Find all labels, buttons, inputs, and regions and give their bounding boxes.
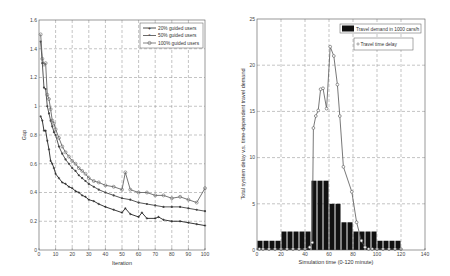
left-x-axis-label: Iteration [112,260,132,266]
x-tick-label: 20 [278,251,284,257]
circle-marker-icon [312,127,315,130]
y-tick-label: 20 [249,62,255,68]
x-tick-label: 100 [201,251,210,257]
y-tick-label: 0.6 [30,161,37,167]
right-y-axis-label: Total system delay v.s. time-dependent t… [240,68,246,199]
x-tick-label: 100 [373,251,382,257]
plus-marker-icon [113,209,115,211]
star-marker-icon [78,174,80,176]
y-tick-label: 15 [249,108,255,114]
demand-bar [299,232,304,250]
x-tick-label: 50 [119,251,125,257]
plus-marker-icon [187,221,189,223]
demand-bar [353,232,358,250]
y-tick-label: 5 [252,201,255,207]
demand-bar [287,232,292,250]
star-marker-icon [58,145,60,147]
left-grid [39,20,205,250]
star-marker-icon [48,112,50,114]
series-line-0 [41,116,205,225]
star-marker-icon [55,134,57,136]
x-tick-label: 40 [302,251,308,257]
x-tick-label: 40 [103,251,109,257]
figure: 010203040506070809010000.20.40.60.811.21… [0,0,450,276]
circle-marker-icon [325,107,328,110]
plus-marker-icon [179,220,181,222]
legend-label-delay: Travel time delay [361,42,398,47]
plus-marker-icon [39,115,41,117]
demand-bar [347,222,352,250]
y-tick-label: 1 [34,103,37,109]
star-marker-icon [51,125,53,127]
demand-bar [317,181,322,250]
x-tick-label: 0 [256,251,259,257]
y-tick-label: 1.4 [30,46,37,52]
plus-marker-icon [46,140,48,142]
plus-marker-icon [196,223,198,225]
circle-marker-icon [336,83,339,86]
star-marker-icon [129,199,131,201]
x-tick-label: 0 [38,251,41,257]
x-tick-label: 120 [397,251,406,257]
star-marker-icon [43,86,45,88]
x-tick-label: 60 [326,251,332,257]
star-marker-icon [98,189,100,191]
circle-marker-icon [338,115,341,118]
plus-marker-icon: + [148,25,151,31]
right-chart-delay-vs-demand: 0204060801001201400510152025 Simulation … [240,16,429,265]
circle-marker-icon [322,87,325,90]
star-marker-icon [45,88,47,90]
y-tick-label: 1.6 [30,17,37,23]
x-tick-label: 10 [53,251,59,257]
plus-marker-icon [44,129,46,131]
y-tick-label: 0 [252,247,255,253]
star-marker-icon [68,163,70,165]
left-y-axis-label: Gap [21,130,27,140]
demand-bar [371,232,376,250]
star-marker-icon [84,180,86,182]
circle-marker-icon [364,246,367,249]
circle-marker-icon [311,241,314,244]
y-tick-label: 0.4 [30,189,37,195]
demand-bar [323,181,328,250]
star-marker-icon [146,203,148,205]
star-marker-icon [162,206,164,208]
x-tick-label: 30 [86,251,92,257]
star-marker-icon [93,186,95,188]
x-tick-label: 80 [169,251,175,257]
x-tick-label: 90 [186,251,192,257]
bar-swatch-icon [342,26,354,32]
circle-marker-icon [350,190,353,193]
star-marker-icon [53,131,55,133]
left-legend: + 20% guided users * 50% guided users 10… [140,23,203,48]
star-marker-icon [71,167,73,169]
x-tick-label: 70 [152,251,158,257]
circle-marker-icon [360,239,363,242]
star-marker-icon: * [149,33,151,39]
demand-bar [335,204,340,250]
star-marker-icon [104,191,106,193]
x-tick-label: 20 [69,251,75,257]
left-tick-labels: 010203040506070809010000.20.40.60.811.21… [30,17,209,257]
star-marker-icon [46,105,48,107]
circle-marker-icon [332,55,335,58]
star-marker-icon [121,197,123,199]
demand-bar [293,232,298,250]
legend-label-100pct: 100% guided users [158,41,200,46]
plus-marker-icon [204,224,206,226]
star-marker-icon [61,153,63,155]
circle-marker-icon [308,246,311,249]
circle-marker-icon [329,45,332,48]
star-marker-icon [138,201,140,203]
x-tick-label: 60 [136,251,142,257]
star-marker-icon [171,206,173,208]
demand-bar [341,222,346,250]
plus-marker-icon [41,119,43,121]
star-marker-icon [64,158,66,160]
demand-bar [329,204,334,250]
y-tick-label: 0 [34,247,37,253]
star-marker-icon [179,206,181,208]
star-marker-icon [113,194,115,196]
circle-marker-icon [317,109,320,112]
x-tick-label: 140 [421,251,430,257]
